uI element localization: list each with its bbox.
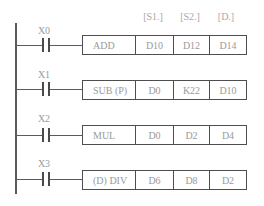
instruction-op: (D) DIV [83,171,135,189]
rung-wire [16,89,42,90]
header-s2: [S2.] [171,11,209,22]
rung-wire [50,89,82,90]
operand-s2: D8 [173,171,209,189]
contact-label: X1 [34,69,54,80]
instruction-op: MUL [83,126,135,144]
operand-s1: D6 [135,171,173,189]
operand-d: D2 [209,171,246,189]
rung-wire [16,135,42,136]
operand-s1: D0 [135,81,173,99]
left-power-rail [15,23,17,194]
contact-label: X3 [34,158,54,169]
operand-d: D10 [209,81,246,99]
rung-wire [16,45,42,46]
instruction-block: ADD D10 D12 D14 [82,35,247,55]
instruction-block: SUB (P) D0 K22 D10 [82,80,247,100]
instruction-op: ADD [83,36,135,54]
operand-d: D4 [209,126,246,144]
rung-wire [50,45,82,46]
contact-label: X2 [34,113,54,124]
operand-s1: D0 [135,126,173,144]
instruction-block: MUL D0 D2 D4 [82,125,247,145]
operand-s2: D2 [173,126,209,144]
rung-wire [16,179,42,180]
contact-label: X0 [34,25,54,36]
operand-s2: K22 [173,81,209,99]
instruction-block: (D) DIV D6 D8 D2 [82,170,247,190]
operand-d: D14 [209,36,246,54]
header-s1: [S1.] [134,11,172,22]
rung-wire [50,135,82,136]
instruction-op: SUB (P) [83,81,135,99]
rung-wire [50,179,82,180]
operand-s2: D12 [173,36,209,54]
header-d: [D.] [207,11,245,22]
operand-s1: D10 [135,36,173,54]
